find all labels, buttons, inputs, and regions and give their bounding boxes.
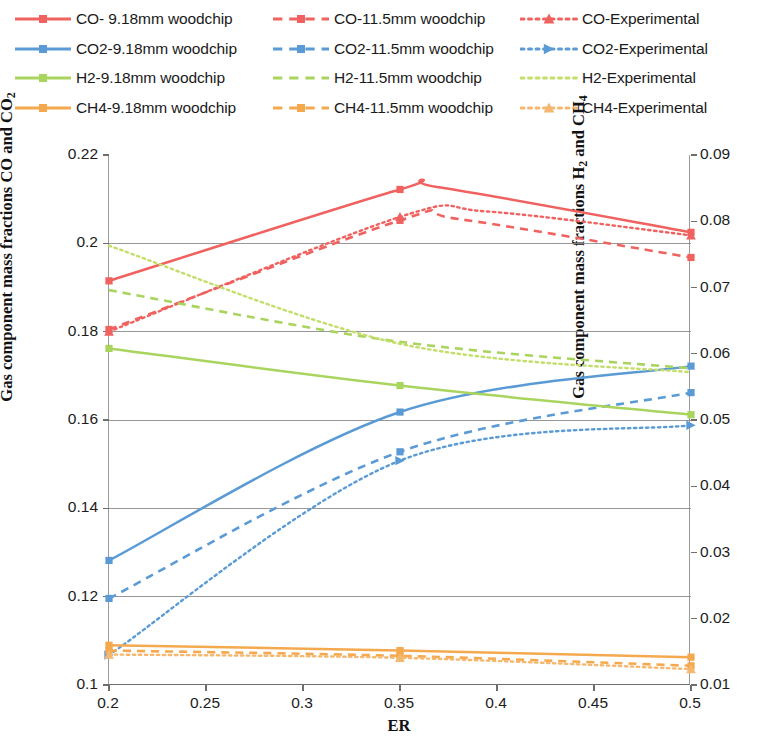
legend-swatch-icon: [272, 11, 330, 27]
y-right-tick-label: 0.03: [700, 543, 760, 561]
y-left-tick-label: 0.2: [38, 233, 98, 251]
series-line: [109, 246, 691, 373]
y-right-tick-label: 0.07: [700, 278, 760, 296]
y-right-tick-label: 0.08: [700, 211, 760, 229]
x-tick-label: 0.3: [272, 694, 332, 712]
legend-item[interactable]: CH4-Experimental: [520, 97, 707, 119]
data-marker: [105, 277, 112, 284]
y-axis-left-title: Gas component mass fractions CO and CO2: [0, 0, 19, 527]
x-tick-label: 0.35: [369, 694, 429, 712]
data-marker: [396, 408, 403, 415]
data-marker: [687, 654, 694, 661]
data-marker: [544, 44, 554, 54]
y-axis-left-title-text: Gas component mass fractions CO and CO2: [0, 92, 16, 401]
y-left-tick-label: 0.16: [38, 410, 98, 428]
legend-item[interactable]: CH4-11.5mm woodchip: [272, 97, 493, 119]
series-line: [109, 366, 691, 560]
x-tick-label: 0.5: [660, 694, 720, 712]
y-left-tick-label: 0.22: [38, 145, 98, 163]
legend-item[interactable]: H2-Experimental: [520, 67, 696, 89]
series-line: [109, 348, 691, 414]
legend-item[interactable]: CO2-Experimental: [520, 38, 708, 60]
data-marker: [687, 389, 694, 396]
series-line: [109, 210, 691, 329]
data-marker: [105, 595, 112, 602]
series-h2-9-18mm-woodchip: [105, 345, 694, 418]
legend-item-label: CO2-11.5mm woodchip: [334, 40, 494, 58]
data-marker: [395, 456, 404, 465]
y-left-tick-label: 0.18: [38, 322, 98, 340]
legend-swatch-icon: [14, 41, 72, 57]
data-marker: [396, 448, 403, 455]
x-tick-label: 0.2: [78, 694, 138, 712]
legend-item-label: CO-Experimental: [582, 10, 699, 28]
chart-root: CO- 9.18mm woodchipCO2-9.18mm woodchipH2…: [0, 0, 764, 746]
data-marker: [687, 411, 694, 418]
x-tick-label: 0.45: [563, 694, 623, 712]
legend-item[interactable]: CO-Experimental: [520, 8, 699, 30]
y-left-tick-label: 0.12: [38, 587, 98, 605]
legend-item-label: CH4-Experimental: [582, 99, 707, 117]
legend-item[interactable]: CO-11.5mm woodchip: [272, 8, 485, 30]
series-co2-9-18mm-woodchip: [105, 363, 694, 565]
legend-item[interactable]: H2-9.18mm woodchip: [14, 67, 225, 89]
series-line: [109, 205, 691, 331]
legend-item-label: CH4-11.5mm woodchip: [334, 99, 493, 117]
series-h2-11-5mm-woodchip: [109, 290, 691, 368]
x-tick-label: 0.25: [175, 694, 235, 712]
legend-item[interactable]: CO2-9.18mm woodchip: [14, 38, 237, 60]
series-co2-11-5mm-woodchip: [105, 389, 694, 602]
legend-item-label: CO- 9.18mm woodchip: [76, 10, 233, 28]
series-line: [109, 393, 691, 599]
y-right-tick-label: 0.06: [700, 344, 760, 362]
x-tick-label: 0.4: [466, 694, 526, 712]
legend-item-label: CO2-Experimental: [582, 40, 708, 58]
legend-item[interactable]: CO2-11.5mm woodchip: [272, 38, 494, 60]
y-left-tick-label: 0.14: [38, 498, 98, 516]
data-marker: [396, 382, 403, 389]
data-marker: [396, 186, 403, 193]
y-left-tick-label: 0.1: [38, 675, 98, 693]
legend-item-label: CO-11.5mm woodchip: [334, 10, 485, 28]
x-axis-title: ER: [108, 716, 690, 736]
series-co-9-18mm-woodchip: [105, 180, 694, 285]
legend-item-label: H2-11.5mm woodchip: [334, 69, 482, 87]
chart-legend: CO- 9.18mm woodchipCO2-9.18mm woodchipH2…: [0, 0, 764, 132]
y-right-tick-label: 0.05: [700, 410, 760, 428]
legend-swatch-icon: [272, 41, 330, 57]
data-marker: [39, 74, 47, 82]
legend-item[interactable]: CH4-9.18mm woodchip: [14, 97, 236, 119]
series-co2-experimental: [104, 421, 695, 660]
series-line: [109, 180, 691, 281]
series-co-11-5mm-woodchip: [105, 210, 694, 333]
data-marker: [297, 15, 305, 23]
data-marker: [686, 421, 695, 430]
legend-swatch-icon: [14, 11, 72, 27]
legend-item-label: H2-9.18mm woodchip: [76, 69, 225, 87]
data-marker: [105, 557, 112, 564]
y-right-tick-label: 0.09: [700, 145, 760, 163]
legend-swatch-icon: [14, 100, 72, 116]
plot-area: [108, 155, 690, 685]
data-marker: [395, 212, 405, 221]
data-marker: [687, 363, 694, 370]
series-co-experimental: [104, 205, 696, 335]
data-marker: [105, 345, 112, 352]
legend-item[interactable]: CO- 9.18mm woodchip: [14, 8, 233, 30]
data-marker: [39, 15, 47, 23]
series-layer: [109, 155, 691, 685]
legend-item-label: CH4-9.18mm woodchip: [76, 99, 236, 117]
y-right-tick-label: 0.01: [700, 675, 760, 693]
legend-swatch-icon: [272, 70, 330, 86]
data-marker: [687, 254, 694, 261]
legend-item[interactable]: H2-11.5mm woodchip: [272, 67, 482, 89]
data-marker: [39, 104, 47, 112]
legend-swatch-icon: [14, 70, 72, 86]
series-h2-experimental: [109, 246, 691, 373]
data-marker: [297, 104, 305, 112]
y-right-tick-label: 0.02: [700, 609, 760, 627]
legend-swatch-icon: [272, 100, 330, 116]
legend-item-label: CO2-9.18mm woodchip: [76, 40, 237, 58]
series-line: [109, 290, 691, 368]
legend-item-label: H2-Experimental: [582, 69, 696, 87]
